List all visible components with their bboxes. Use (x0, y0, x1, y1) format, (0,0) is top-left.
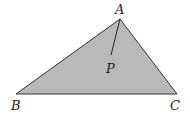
label-b: B (10, 98, 21, 113)
triangle-abc (16, 19, 177, 94)
label-a: A (114, 2, 124, 17)
label-p: P (105, 61, 115, 76)
label-c: C (170, 98, 180, 113)
triangle-diagram: A P B C (0, 0, 190, 116)
